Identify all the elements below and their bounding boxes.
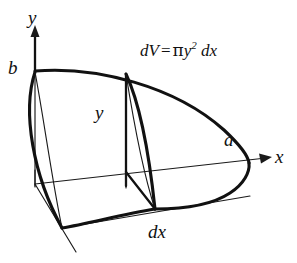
y-axis-label: y xyxy=(28,8,36,27)
x-axis-arrowhead xyxy=(259,154,272,164)
formula-lhs: dV xyxy=(140,41,159,60)
nose-curve xyxy=(155,163,249,209)
formula-exponent: 2 xyxy=(191,39,197,51)
lower-profile-curve xyxy=(62,209,155,228)
b-label: b xyxy=(8,58,18,77)
left-disk-back-arc xyxy=(35,72,62,228)
figure-root: y x b a y dx dV=πy2 dx xyxy=(0,0,297,263)
formula-pi: π xyxy=(172,40,183,60)
upper-profile-curve xyxy=(35,70,249,163)
formula-equals: = xyxy=(159,41,173,60)
volume-formula: dV=πy2 dx xyxy=(140,40,217,59)
disk-radius-label: y xyxy=(95,103,103,122)
a-label: a xyxy=(224,130,234,149)
dx-label: dx xyxy=(148,222,166,241)
formula-differential: dx xyxy=(201,41,217,60)
x-axis-label: x xyxy=(275,147,283,166)
